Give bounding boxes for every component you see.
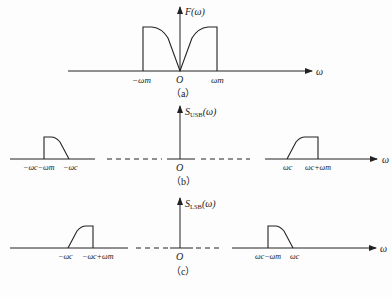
lsb-right-band: [268, 226, 293, 248]
usb-left-band: [44, 137, 69, 159]
caption-a: （a）: [171, 88, 195, 99]
usb-right-band: [287, 137, 318, 159]
tick-neg-wm: −ωm: [132, 75, 151, 85]
tick-wc-plus-wm: ωc+ωm: [305, 163, 331, 172]
ssb-spectrum-figure: F(ω) ω O −ωm ωm （a） SUSB(ω) ω O −ωc−ωm −…: [0, 0, 392, 297]
caption-b: （b）: [171, 176, 196, 187]
x-axis-label: ω: [382, 154, 389, 165]
x-axis-label: ω: [316, 66, 323, 77]
y-axis-label: SUSB(ω): [185, 106, 217, 118]
tick-neg-wc: −ωc: [63, 163, 78, 172]
caption-c: （c）: [171, 266, 195, 277]
x-axis-label: ω: [380, 243, 387, 254]
lsb-left-band: [68, 226, 93, 248]
tick-wc: ωc: [283, 163, 293, 172]
y-axis-label: F(ω): [184, 6, 205, 18]
y-axis-label: SLSB(ω): [185, 198, 216, 210]
figure-svg: F(ω) ω O −ωm ωm （a） SUSB(ω) ω O −ωc−ωm −…: [0, 0, 392, 297]
tick-neg-wc-neg-wm: −ωc−ωm: [23, 163, 55, 172]
origin-label: O: [176, 162, 183, 173]
panel-c: SLSB(ω) ω O −ωc −ωc+ωm ωc−ωm ωc （c）: [10, 198, 387, 277]
tick-wm: ωm: [211, 75, 224, 85]
tick-neg-wc: −ωc: [58, 252, 73, 261]
origin-label: O: [176, 251, 183, 262]
tick-wc: ωc: [290, 252, 300, 261]
tick-wc-minus-wm: ωc−ωm: [255, 252, 281, 261]
panel-b: SUSB(ω) ω O −ωc−ωm −ωc ωc ωc+ωm （b）: [10, 106, 389, 187]
origin-label: O: [176, 74, 183, 85]
tick-neg-wc-plus-wm: −ωc+ωm: [82, 252, 114, 261]
panel-a: F(ω) ω O −ωm ωm （a）: [68, 6, 323, 99]
